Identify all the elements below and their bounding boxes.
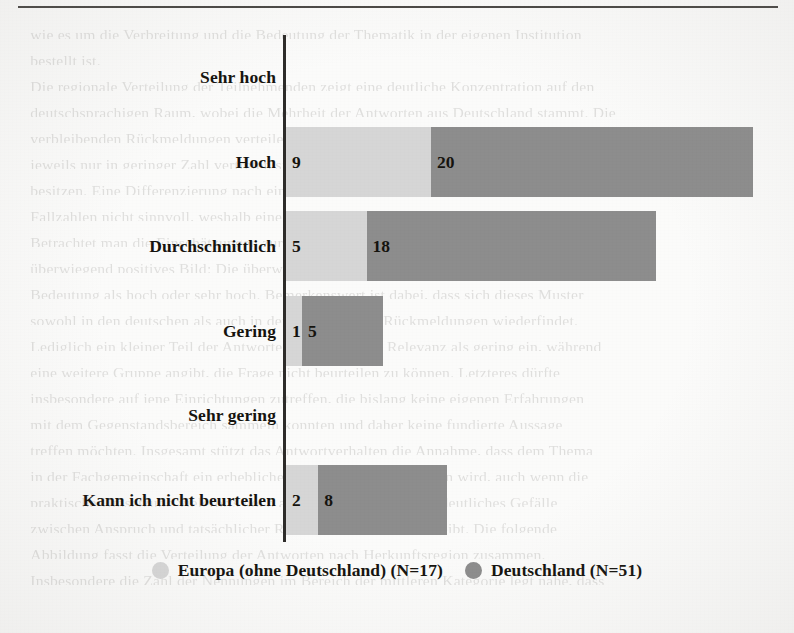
bar-segment-deutschland: 8 <box>318 465 447 535</box>
bar-segment-deutschland: 18 <box>367 211 657 281</box>
bar-value-deutschland: 18 <box>373 236 391 257</box>
bar-group: 920 <box>286 127 753 197</box>
scanned-page: wie es um die Verbreitung und die Bedeut… <box>0 0 794 633</box>
bar-value-deutschland: 8 <box>324 489 333 510</box>
category-label: Sehr gering <box>188 405 276 426</box>
bar-value-europa: 2 <box>292 489 301 510</box>
top-horizontal-rule <box>18 6 778 8</box>
category-label: Sehr hoch <box>200 67 276 88</box>
legend-label: Europa (ohne Deutschland) (N=17) <box>178 560 443 581</box>
legend-item: Europa (ohne Deutschland) (N=17) <box>152 560 443 581</box>
chart-row: Hoch920 <box>0 120 794 204</box>
bar-group: 518 <box>286 211 656 281</box>
bar-value-deutschland: 20 <box>437 151 455 172</box>
legend-item: Deutschland (N=51) <box>465 560 642 581</box>
bar-value-europa: 1 <box>292 320 301 341</box>
legend-label: Deutschland (N=51) <box>491 560 642 581</box>
chart-row: Sehr hoch <box>0 35 794 119</box>
chart-row: Sehr gering <box>0 373 794 457</box>
bar-group: 15 <box>286 296 383 366</box>
category-label: Gering <box>223 320 276 341</box>
bar-segment-deutschland: 5 <box>302 296 383 366</box>
bar-segment-europa: 1 <box>286 296 302 366</box>
bar-segment-europa: 5 <box>286 211 367 281</box>
bar-value-europa: 9 <box>292 151 301 172</box>
chart-legend: Europa (ohne Deutschland) (N=17)Deutschl… <box>0 560 794 581</box>
chart-row: Kann ich nicht beurteilen28 <box>0 458 794 542</box>
category-label: Durchschnittlich <box>149 236 276 257</box>
bar-segment-deutschland: 20 <box>431 127 753 197</box>
bar-value-europa: 5 <box>292 236 301 257</box>
horizontal-bar-chart: Sehr hochHoch920Durchschnittlich518Gerin… <box>0 0 794 633</box>
legend-swatch-circle-icon <box>465 562 482 579</box>
category-label: Kann ich nicht beurteilen <box>82 489 276 510</box>
bar-segment-europa: 9 <box>286 127 431 197</box>
chart-row: Gering15 <box>0 289 794 373</box>
bar-value-deutschland: 5 <box>308 320 317 341</box>
legend-swatch-circle-icon <box>152 562 169 579</box>
chart-row: Durchschnittlich518 <box>0 204 794 288</box>
bar-group: 28 <box>286 465 447 535</box>
bar-segment-europa: 2 <box>286 465 318 535</box>
category-label: Hoch <box>236 151 276 172</box>
